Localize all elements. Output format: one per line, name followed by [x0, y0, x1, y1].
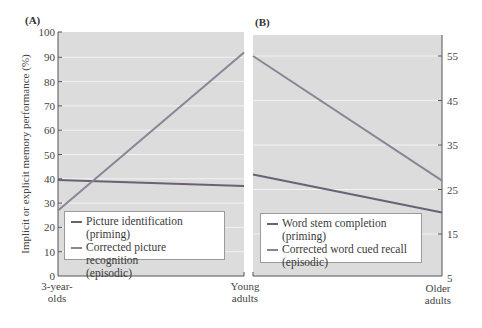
- x-label-young-adults-line2: adults: [232, 292, 258, 304]
- panel-b-label: (B): [255, 16, 270, 28]
- svg-text:80: 80: [44, 76, 56, 88]
- priming-swatch-icon: [71, 221, 82, 223]
- svg-text:20: 20: [44, 221, 56, 233]
- svg-text:40: 40: [44, 173, 56, 185]
- panel-b-ytick-labels: 5 15 25 35 45 55: [447, 50, 459, 284]
- episodic-swatch-icon: [267, 249, 278, 251]
- panel-b-legend: Word stem completion(priming) Corrected …: [260, 213, 422, 263]
- legend-item-picture-identification: Picture identification(priming): [71, 215, 218, 241]
- episodic-swatch-icon: [71, 247, 82, 249]
- legend-item-word-stem-completion: Word stem completion(priming): [267, 217, 415, 243]
- legend-item-corrected-picture-recognition: Corrected picture recognition(episodic): [71, 241, 218, 280]
- svg-text:35: 35: [447, 139, 459, 151]
- svg-text:90: 90: [44, 51, 56, 63]
- svg-text:50: 50: [44, 149, 56, 161]
- x-label-older-adults-line2: adults: [425, 294, 451, 306]
- svg-text:30: 30: [44, 197, 56, 209]
- panel-a-legend: Picture identification(priming) Correcte…: [64, 211, 225, 260]
- x-label-young-adults-line1: Young: [231, 280, 260, 292]
- svg-text:100: 100: [39, 26, 56, 38]
- x-axis-labels: 3-year- olds Young adults Older adults: [41, 280, 451, 306]
- svg-text:15: 15: [447, 228, 459, 240]
- y-axis-label: Implicit or explicit memory performance …: [19, 54, 32, 254]
- x-label-3-year-olds-line2: olds: [48, 292, 66, 304]
- svg-text:25: 25: [447, 184, 459, 196]
- legend-item-corrected-word-cued-recall: Corrected word cued recall(episodic): [267, 243, 415, 269]
- panel-a-label: (A): [25, 14, 40, 26]
- svg-text:45: 45: [447, 95, 459, 107]
- svg-text:70: 70: [44, 100, 56, 112]
- x-label-older-adults-line1: Older: [425, 282, 450, 294]
- svg-text:60: 60: [44, 124, 56, 136]
- priming-swatch-icon: [267, 223, 278, 225]
- panel-a-ytick-labels: 0 10 20 30 40 50 60 70 80 90 100: [39, 26, 56, 282]
- x-label-3-year-olds-line1: 3-year-: [41, 280, 73, 292]
- svg-text:10: 10: [44, 246, 56, 258]
- svg-text:55: 55: [447, 50, 459, 62]
